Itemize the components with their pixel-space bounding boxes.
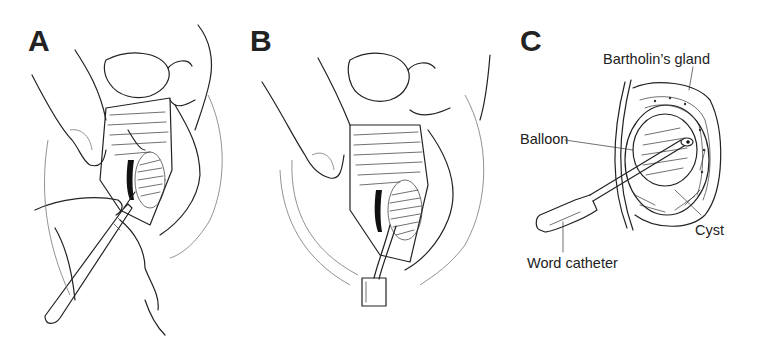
- illustration-balloon-in-cyst: [505, 0, 761, 343]
- illustration-catheter-insertion: [250, 0, 505, 343]
- panel-a: A: [0, 0, 250, 343]
- illustration-incision: [0, 0, 250, 343]
- panel-c: C Bartholin’s gland Balloon Cyst Word ca…: [505, 0, 761, 343]
- panel-b: B: [250, 0, 505, 343]
